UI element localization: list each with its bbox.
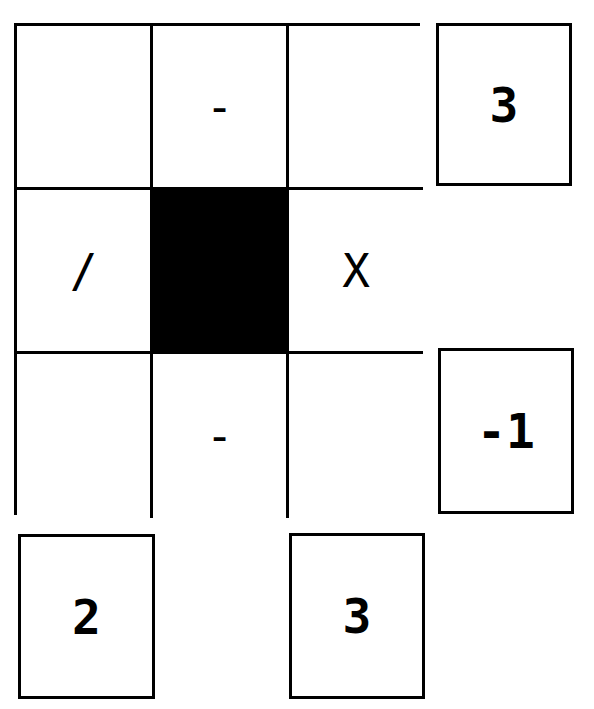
grid-cell-r2-c0[interactable] <box>17 354 153 518</box>
grid-cell-r0-c1: - <box>153 26 289 190</box>
column-result-0: 2 <box>18 534 155 699</box>
column-result-2: 3 <box>289 533 425 699</box>
grid-cell-r0-c0[interactable] <box>17 26 153 190</box>
row-result-0: 3 <box>436 23 572 186</box>
grid-cell-r2-c1: - <box>153 354 289 518</box>
grid-cell-r1-c2: X <box>289 190 423 354</box>
grid-cell-r2-c2[interactable] <box>289 354 423 518</box>
puzzle-grid: - / X - <box>14 23 420 515</box>
grid-cell-r1-c0: / <box>17 190 153 354</box>
row-result-2: -1 <box>438 348 574 514</box>
blocked-cell <box>153 190 289 354</box>
grid-cell-r0-c2[interactable] <box>289 26 423 190</box>
